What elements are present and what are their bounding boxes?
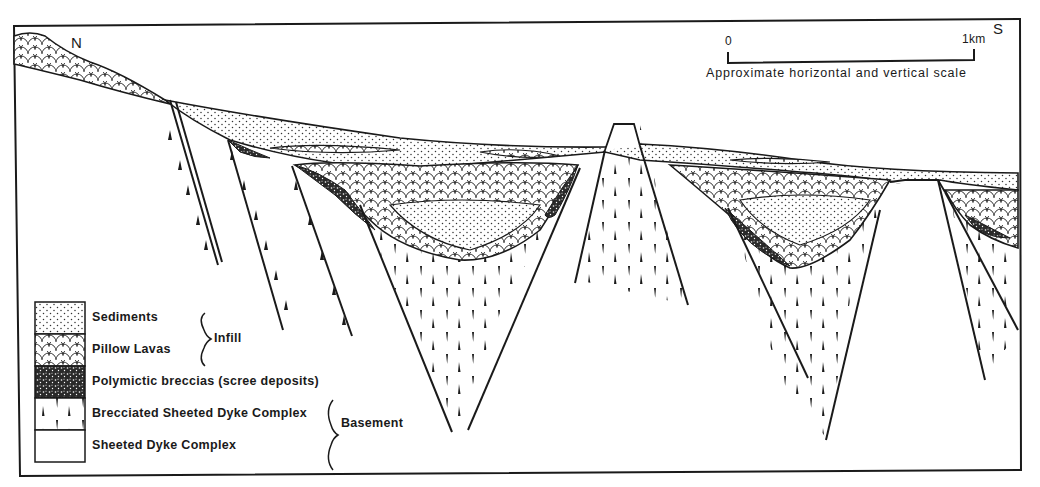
scale-start-label: 0 [725, 34, 732, 48]
legend-label-breccias: Polymictic breccias (scree deposits) [92, 374, 319, 388]
legend-swatch-pillow-lavas [35, 334, 85, 366]
legend-label-sheeted-dyke: Sheeted Dyke Complex [92, 438, 236, 452]
scale-bar [728, 49, 974, 63]
brace-infill [201, 313, 211, 366]
legend-group-basement: Basement [341, 416, 403, 430]
legend-swatch-brecciated-dyke [35, 398, 85, 430]
legend-swatch-breccias [35, 366, 85, 398]
south-label: S [993, 20, 1003, 37]
sediment-layer [165, 100, 1018, 190]
legend-group-infill: Infill [214, 331, 242, 345]
scale-end-label: 1km [962, 32, 986, 46]
north-label: N [71, 34, 82, 51]
legend-swatch-sheeted-dyke [35, 430, 85, 462]
pillow-lava-north-slope [14, 33, 170, 104]
horst-2 [890, 180, 945, 192]
legend-label-sediments: Sediments [92, 310, 158, 324]
legend-swatch-sediments [35, 302, 85, 334]
scale-caption: Approximate horizontal and vertical scal… [706, 66, 967, 80]
brace-basement [328, 400, 338, 470]
legend-label-brecciated-dyke: Brecciated Sheeted Dyke Complex [92, 406, 307, 420]
legend-swatches [35, 302, 85, 462]
horst-1 [605, 124, 640, 150]
legend-label-pillow-lavas: Pillow Lavas [92, 342, 171, 356]
